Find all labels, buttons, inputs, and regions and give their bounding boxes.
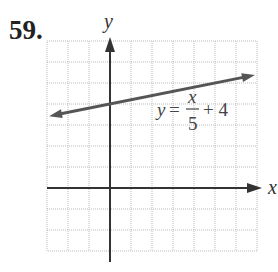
x-axis-arrow-icon [247, 183, 262, 193]
graph: x y y = x 5 + 4 [0, 0, 278, 272]
svg-text:5: 5 [188, 113, 198, 134]
line-arrow-left-icon [49, 109, 63, 118]
y-axis-arrow-icon [105, 37, 115, 52]
svg-text:=: = [169, 99, 180, 120]
svg-text:+ 4: + 4 [203, 99, 228, 120]
grid [47, 41, 257, 251]
svg-text:y: y [155, 99, 166, 120]
line-arrow-right-icon [241, 73, 255, 82]
y-axis-label: y [102, 10, 113, 33]
svg-text:x: x [187, 86, 197, 107]
x-axis-label: x [267, 176, 277, 198]
